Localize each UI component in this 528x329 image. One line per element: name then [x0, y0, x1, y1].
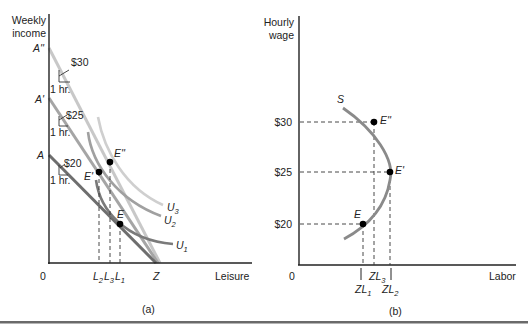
label-e-double-prime: E'' — [114, 147, 126, 159]
y-axis-label-b2: wage — [268, 29, 294, 41]
wage-annotation-30: $30 — [71, 56, 89, 68]
y-axis-label-b1: Hourly — [264, 16, 295, 28]
caption-a: (a) — [142, 303, 155, 315]
wage-annotation-25: $25 — [66, 109, 84, 121]
intercept-a-double-prime: A'' — [32, 42, 45, 54]
panel-b: Hourly wage $30 $25 $20 S E'' E' E 0 ZL3… — [264, 16, 517, 317]
unit-annotation-30: 1 hr. — [50, 83, 70, 95]
point-b-e-prime — [387, 169, 394, 176]
tick-l2: L2 — [93, 270, 104, 285]
point-b-e-double-prime — [371, 119, 378, 126]
budget-line-30 — [49, 48, 160, 263]
labor-supply-diagram: Weekly income A'' A' A $30 1 hr. $25 1 h… — [0, 0, 528, 329]
intercept-a-prime: A' — [34, 93, 45, 105]
y-axis-label-a1: Weekly — [12, 14, 47, 26]
wage-annotation-20: $20 — [64, 157, 82, 169]
label-e: E — [117, 208, 125, 220]
point-e-double-prime — [107, 159, 114, 166]
label-s: S — [337, 93, 344, 105]
intercept-a: A — [36, 149, 44, 161]
label-b-e-double-prime: E'' — [380, 114, 392, 126]
intercept-z: Z — [152, 270, 160, 282]
label-e-prime: E' — [84, 170, 94, 182]
label-u2: U2 — [164, 214, 177, 229]
point-e — [117, 221, 124, 228]
tick-l3: L3 — [104, 270, 115, 285]
label-b-e-prime: E' — [395, 164, 405, 176]
bottom-rule — [0, 321, 528, 324]
label-u1: U1 — [176, 239, 188, 254]
caption-b: (b) — [389, 305, 402, 317]
panel-a: Weekly income A'' A' A $30 1 hr. $25 1 h… — [12, 14, 252, 315]
y-axis-label-a2: income — [12, 27, 46, 39]
label-b-e: E — [354, 208, 362, 220]
labor-supply-curve — [343, 108, 391, 239]
tick-zl2: ZL2 — [381, 283, 399, 298]
point-b-e — [360, 221, 367, 228]
x-axis-label-b: Labor — [489, 270, 516, 282]
origin-label-b: 0 — [289, 270, 295, 282]
origin-label-a: 0 — [40, 270, 46, 282]
wage-tick-25: $25 — [274, 166, 292, 178]
x-axis-label-a: Leisure — [215, 270, 250, 282]
wage-tick-20: $20 — [274, 218, 292, 230]
unit-annotation-25: 1 hr. — [50, 126, 70, 138]
tick-zl1: ZL1 — [354, 283, 371, 298]
wage-tick-30: $30 — [274, 116, 292, 128]
point-e-prime — [96, 169, 103, 176]
unit-annotation-20: 1 hr. — [50, 174, 70, 186]
tick-l1: L1 — [115, 270, 125, 285]
